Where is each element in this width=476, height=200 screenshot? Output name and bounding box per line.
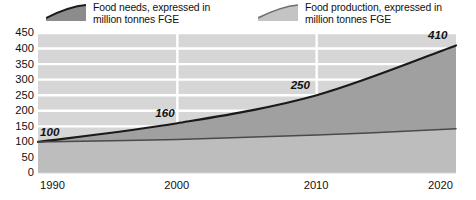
y-tick-label-200: 200 — [4, 105, 34, 116]
y-tick-label-250: 250 — [4, 90, 34, 101]
plot-area: 050100150200250300350400450 199020002010… — [0, 0, 476, 200]
y-tick-label-100: 100 — [4, 136, 34, 147]
y-tick-label-400: 400 — [4, 43, 34, 54]
x-tick-label-2020: 2020 — [428, 180, 453, 191]
y-tick-label-50: 50 — [4, 152, 34, 163]
x-tick-label-2000: 2000 — [164, 180, 189, 191]
x-tick-label-2010: 2010 — [304, 180, 329, 191]
data-label-410: 410 — [428, 29, 447, 41]
y-tick-label-350: 350 — [4, 59, 34, 70]
data-label-160: 160 — [155, 107, 174, 119]
y-tick-label-0: 0 — [4, 167, 34, 178]
x-tick-label-1990: 1990 — [40, 180, 65, 191]
plot-svg — [0, 0, 476, 200]
y-axis-tick-labels: 050100150200250300350400450 — [2, 0, 34, 200]
chart-figure: Food needs, expressed inmillion tonnes F… — [0, 0, 476, 200]
y-tick-label-450: 450 — [4, 27, 34, 38]
data-label-100: 100 — [40, 126, 59, 138]
y-tick-label-150: 150 — [4, 121, 34, 132]
data-label-250: 250 — [291, 79, 310, 91]
y-tick-label-300: 300 — [4, 74, 34, 85]
